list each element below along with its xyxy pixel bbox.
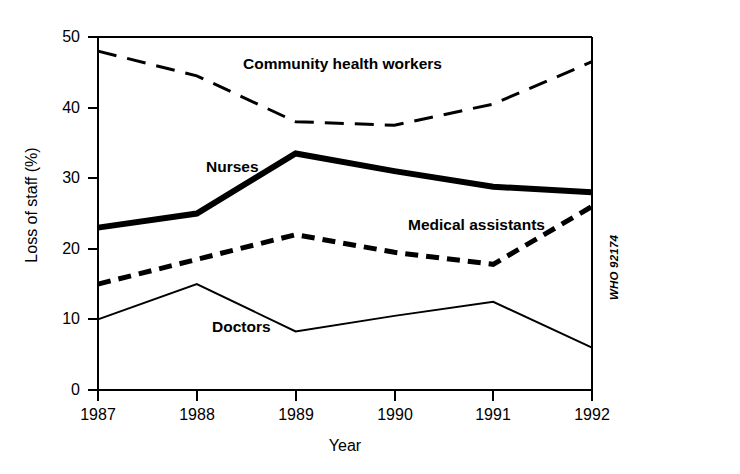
y-tick-label-50: 50 <box>44 28 80 46</box>
y-tick-label-10: 10 <box>44 310 80 328</box>
x-tick-label-1991: 1991 <box>465 406 521 424</box>
chart-axes <box>98 37 592 390</box>
series-label-community-health-workers: Community health workers <box>243 55 442 73</box>
series-label-doctors: Doctors <box>212 318 271 336</box>
y-tick-label-30: 30 <box>44 169 80 187</box>
x-tick-label-1989: 1989 <box>268 406 324 424</box>
x-axis-title: Year <box>305 437 385 455</box>
y-axis-title: Loss of staff (%) <box>23 125 41 285</box>
who-source-code: WHO 92174 <box>608 235 620 300</box>
chart-figure: 50 40 30 20 10 0 1987 1988 1989 1990 199… <box>0 0 740 474</box>
series-line-doctors <box>98 284 592 348</box>
chart-series-group <box>98 51 592 348</box>
x-tick-label-1988: 1988 <box>169 406 225 424</box>
x-axis-ticks <box>98 390 592 401</box>
y-axis-ticks <box>88 37 98 390</box>
series-label-medical-assistants: Medical assistants <box>408 216 545 234</box>
y-tick-label-0: 0 <box>44 381 80 399</box>
x-tick-label-1990: 1990 <box>367 406 423 424</box>
y-tick-label-20: 20 <box>44 240 80 258</box>
y-tick-label-40: 40 <box>44 99 80 117</box>
x-tick-label-1987: 1987 <box>70 406 126 424</box>
x-tick-label-1992: 1992 <box>564 406 620 424</box>
series-label-nurses: Nurses <box>206 158 259 176</box>
